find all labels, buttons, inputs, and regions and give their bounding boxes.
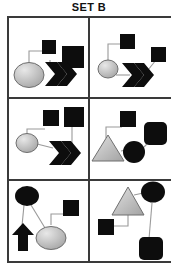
link-circle-ellipse [31, 205, 45, 228]
small-black-square [63, 200, 79, 216]
link-circle-roundedsquare [149, 203, 152, 239]
small-black-square [42, 40, 56, 54]
panel-1[interactable] [9, 18, 88, 97]
panel-5[interactable] [9, 181, 88, 261]
large-black-rounded-square [144, 122, 167, 145]
stimulus-figure: SET B [0, 0, 178, 267]
panel-6[interactable] [90, 181, 171, 261]
gray-ellipse [36, 227, 66, 250]
figure-title: SET B [0, 1, 178, 13]
gray-triangle [112, 187, 144, 215]
small-black-square-right [151, 47, 166, 62]
small-black-square [98, 219, 114, 235]
panel-5-links [22, 205, 67, 228]
black-up-arrow [12, 223, 34, 251]
panel-4[interactable] [90, 99, 171, 179]
small-black-square [43, 110, 59, 126]
black-circle [141, 182, 165, 203]
small-black-square [120, 111, 136, 127]
black-circle [123, 141, 145, 163]
small-black-square-top [120, 34, 135, 49]
large-black-square [64, 107, 84, 127]
link-circle-arrow [22, 205, 24, 226]
panel-3[interactable] [9, 99, 88, 179]
link-circle-chevron [37, 144, 53, 148]
gray-circle [16, 134, 38, 153]
black-circle [15, 186, 39, 206]
panel-2[interactable] [90, 18, 171, 97]
gray-circle [14, 63, 44, 88]
gray-circle [98, 60, 118, 78]
panel-grid [7, 16, 171, 263]
gray-triangle [92, 135, 124, 161]
large-black-rounded-square [139, 237, 163, 260]
